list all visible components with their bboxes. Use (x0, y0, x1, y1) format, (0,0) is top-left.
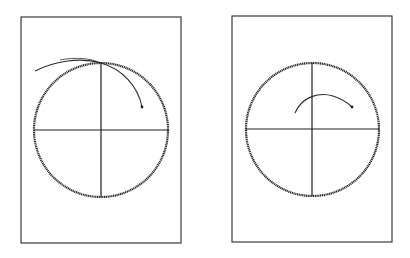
right-panel (232, 16, 392, 242)
right-trajectory-endpoint (351, 106, 354, 109)
left-panel (21, 17, 181, 243)
left-trajectory-endpoint (141, 106, 144, 109)
figure-canvas (0, 0, 410, 258)
right-trajectory-curve (295, 95, 352, 113)
